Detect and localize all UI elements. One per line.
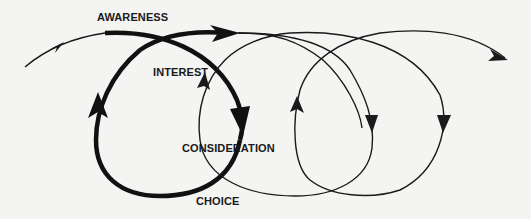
loop-3-path (290, 31, 505, 196)
thin-arrow-down-2-icon (437, 115, 451, 133)
awareness-to-consideration-thick (105, 33, 242, 140)
choice-loop-thick (96, 32, 240, 196)
entry-arrow-icon (50, 42, 64, 53)
stage-label-consideration: CONSIDERATION (182, 143, 275, 154)
exit-arrow-icon (488, 49, 508, 61)
decision-loop-diagram: AWARENESS INTEREST CONSIDERATION CHOICE (0, 0, 531, 219)
thin-arrow-up-2-icon (290, 96, 304, 113)
loop-2b-path (238, 33, 362, 128)
entry-path (25, 33, 105, 67)
stage-label-choice: CHOICE (196, 196, 239, 207)
loop-path-graphic (0, 0, 531, 219)
thin-arrow-down-1-icon (365, 115, 378, 133)
stage-label-interest: INTEREST (153, 67, 208, 78)
stage-label-awareness: AWARENESS (97, 12, 168, 23)
